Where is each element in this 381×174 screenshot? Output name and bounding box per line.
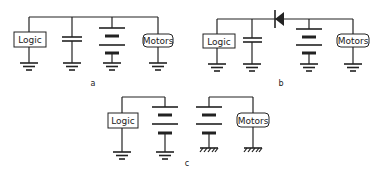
ground-icon xyxy=(300,64,318,71)
motors-label: Motors xyxy=(143,36,174,46)
capacitor-icon xyxy=(62,37,82,41)
logic-battery-branch xyxy=(152,97,178,159)
panel-label-a: a xyxy=(91,79,96,88)
panel-c: Logic xyxy=(108,97,269,168)
panel-label-b: b xyxy=(278,79,283,88)
battery-icon xyxy=(99,28,125,53)
logic-label: Logic xyxy=(207,37,231,47)
ground-icon xyxy=(149,63,167,70)
logic-label: Logic xyxy=(18,35,42,45)
logic-branch: Logic xyxy=(203,19,235,71)
motors-branch: Motors xyxy=(237,97,269,152)
chassis-ground-icon xyxy=(200,148,218,152)
battery-icon xyxy=(296,29,322,53)
ground-icon xyxy=(63,63,81,70)
logic-branch: Logic xyxy=(14,17,46,70)
ground-icon xyxy=(103,63,121,70)
circuit-diagram: Logic xyxy=(0,0,381,174)
battery-branch xyxy=(296,19,322,71)
battery-branch xyxy=(99,17,125,70)
battery-icon xyxy=(152,107,178,133)
battery-icon xyxy=(196,107,222,133)
diode-icon xyxy=(275,10,284,28)
motor-battery-branch xyxy=(196,97,222,152)
ground-icon xyxy=(20,63,38,70)
logic-label: Logic xyxy=(111,116,135,126)
motors-label: Motors xyxy=(338,36,369,46)
chassis-ground-icon xyxy=(244,148,262,152)
ground-icon xyxy=(243,64,261,71)
panel-label-c: c xyxy=(185,159,189,168)
logic-branch: Logic xyxy=(108,97,138,159)
panel-b: Logic xyxy=(203,10,369,88)
capacitor-branch xyxy=(243,19,262,71)
motors-branch: Motors xyxy=(337,19,369,71)
ground-icon xyxy=(344,64,362,71)
motors-branch: Motors xyxy=(143,17,174,70)
capacitor-icon xyxy=(243,38,262,42)
ground-icon xyxy=(113,152,131,159)
motors-label: Motors xyxy=(238,116,269,126)
ground-icon xyxy=(208,64,226,71)
capacitor-branch xyxy=(62,17,82,70)
ground-icon xyxy=(156,152,174,159)
panel-a: Logic xyxy=(14,17,174,88)
